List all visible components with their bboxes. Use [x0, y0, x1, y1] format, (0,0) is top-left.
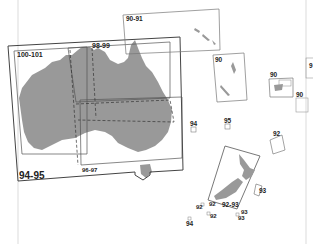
label-fiji: 90	[270, 71, 278, 78]
label-100-101: 100-101	[17, 51, 43, 58]
box-chatham[interactable]	[270, 135, 285, 154]
label-tonga: 90	[296, 91, 304, 98]
label-macquarie: 94	[186, 220, 194, 227]
label-norfolk: 95	[224, 117, 232, 124]
label-nz-sub-2: 92	[209, 201, 216, 207]
nz-south-island	[214, 178, 243, 200]
label-94-95: 94-95	[19, 170, 45, 181]
solomon-islands	[194, 28, 216, 45]
label-nz-sub-3: 92	[210, 213, 217, 219]
label-90-91: 90-91	[126, 15, 143, 22]
label-vanuatu: 90	[215, 56, 223, 63]
tasmania-landmass	[140, 164, 152, 178]
label-nz-sub-5: 93	[238, 215, 245, 221]
box-lord-howe[interactable]	[191, 127, 196, 132]
label-nz-sub-1: 92	[196, 204, 203, 210]
label-lord-howe: 94	[190, 120, 198, 127]
label-nz-east: 93	[259, 187, 267, 194]
label-96-97: 96-97	[82, 167, 98, 173]
label-far-right: 9	[309, 62, 313, 69]
nz-north-island	[239, 154, 255, 180]
fiji-islands	[274, 84, 283, 91]
vanuatu-islands	[220, 62, 236, 96]
label-chatham: 92	[273, 130, 281, 137]
map-canvas: 94-95 100-101 98-99 96-97 90-91 90 90 90…	[0, 0, 313, 244]
label-98-99: 98-99	[92, 42, 110, 49]
box-norfolk[interactable]	[225, 124, 230, 129]
label-nz-frame: 92-93	[222, 201, 239, 208]
